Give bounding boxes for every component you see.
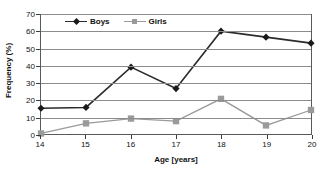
x-axis-tick-labels: 14151617181920 (40, 140, 312, 152)
y-tick-mark (36, 100, 40, 101)
gridline (41, 83, 311, 84)
legend-label-boys: Boys (90, 17, 110, 26)
plot-inner (41, 14, 311, 134)
y-tick-label: 0 (31, 131, 35, 140)
chart-legend: Boys Girls (62, 16, 170, 27)
x-tick-mark (131, 135, 132, 139)
legend-swatch-boys (65, 17, 87, 26)
series-line-boys (41, 31, 311, 108)
y-tick-mark (36, 118, 40, 119)
x-tick-label: 20 (308, 140, 317, 149)
data-point-girls-20 (308, 107, 314, 113)
series-line-girls (41, 99, 311, 134)
y-tick-mark (36, 49, 40, 50)
square-marker-icon (132, 19, 137, 24)
y-tick-mark (36, 66, 40, 67)
x-axis-title: Age [years] (40, 155, 312, 164)
x-axis-tick-marks (40, 135, 312, 139)
legend-item-girls: Girls (124, 17, 167, 26)
x-tick-mark (176, 135, 177, 139)
y-tick-mark (36, 83, 40, 84)
data-point-girls-15 (83, 120, 89, 126)
data-point-girls-19 (263, 122, 269, 128)
x-tick-label: 15 (81, 140, 90, 149)
diamond-marker-icon (72, 18, 79, 25)
x-tick-mark (267, 135, 268, 139)
x-tick-label: 16 (126, 140, 135, 149)
x-tick-label: 18 (217, 140, 226, 149)
gridline (41, 118, 311, 119)
legend-swatch-girls (124, 17, 146, 26)
x-tick-label: 17 (172, 140, 181, 149)
frequency-by-age-line-chart: Frequency (%) 010203040506070 1415161718… (0, 0, 320, 172)
legend-label-girls: Girls (149, 17, 167, 26)
gridline (41, 66, 311, 67)
plot-area (40, 14, 312, 135)
gridline (41, 49, 311, 50)
gridline (41, 100, 311, 101)
data-point-boys-20 (307, 40, 314, 47)
x-tick-mark (40, 135, 41, 139)
y-tick-label: 70 (26, 10, 35, 19)
x-tick-mark (312, 135, 313, 139)
y-tick-label: 40 (26, 61, 35, 70)
data-point-boys-19 (262, 34, 269, 41)
legend-item-boys: Boys (65, 17, 110, 26)
x-tick-label: 19 (262, 140, 271, 149)
y-axis-tick-marks (36, 14, 40, 135)
data-point-girls-17 (173, 118, 179, 124)
y-tick-mark (36, 31, 40, 32)
gridline (41, 31, 311, 32)
y-tick-mark (36, 14, 40, 15)
y-axis-title-text: Frequency (%) (5, 42, 14, 97)
y-tick-label: 10 (26, 113, 35, 122)
y-tick-label: 20 (26, 96, 35, 105)
x-tick-mark (85, 135, 86, 139)
x-tick-mark (221, 135, 222, 139)
gridline (41, 14, 311, 15)
y-axis-tick-labels: 010203040506070 (16, 9, 38, 135)
y-tick-label: 50 (26, 44, 35, 53)
y-tick-label: 60 (26, 27, 35, 36)
y-tick-label: 30 (26, 79, 35, 88)
x-tick-label: 14 (36, 140, 45, 149)
